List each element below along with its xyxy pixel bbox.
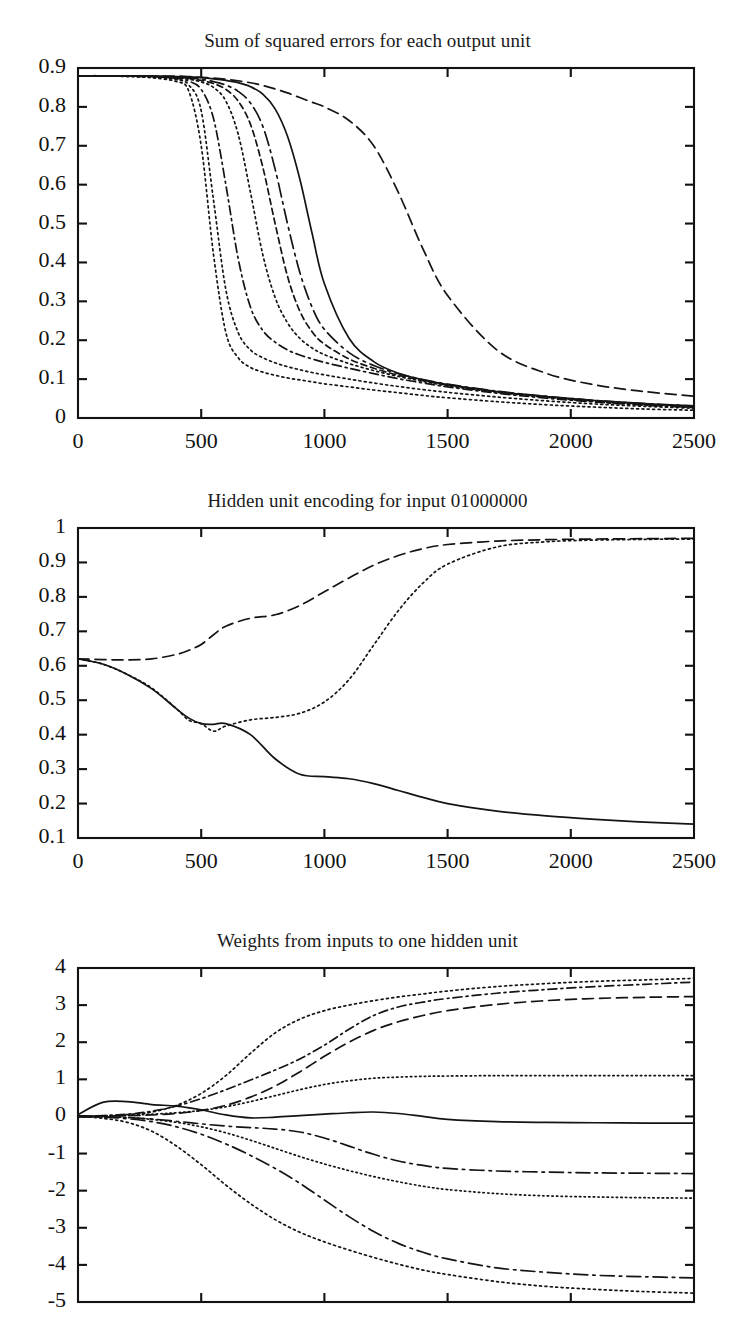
y-tick-label: 2 [55, 1027, 66, 1052]
plot-frame [78, 528, 694, 838]
figure-sum-of-squared-errors: Sum of squared errors for each output un… [0, 30, 735, 470]
y-tick-label: 0.1 [39, 823, 67, 848]
series-line-output-unit-8 [78, 76, 694, 396]
series-line-output-unit-2 [78, 76, 694, 409]
x-tick-label: 0 [73, 848, 84, 873]
figure-3-plot: -5-4-3-2-101234 [0, 930, 735, 1310]
figure-3-svg: -5-4-3-2-101234 [0, 930, 735, 1310]
series-line-weight-4 [78, 1076, 694, 1117]
y-tick-label: -2 [48, 1176, 66, 1201]
figure-weights-to-hidden-unit: Weights from inputs to one hidden unit -… [0, 930, 735, 1334]
x-tick-label: 2000 [549, 428, 593, 453]
x-tick-label: 1000 [302, 428, 346, 453]
y-tick-label: 1 [55, 513, 66, 538]
series-line-weight-3 [78, 982, 694, 1116]
y-tick-label: 0 [55, 403, 66, 428]
series-line-hidden-unit-b [78, 539, 694, 731]
plot-frame [78, 68, 694, 418]
y-tick-label: 0.9 [39, 547, 67, 572]
series-line-output-unit-4 [78, 76, 694, 407]
x-tick-label: 500 [185, 428, 218, 453]
x-tick-label: 2500 [672, 428, 716, 453]
series-line-output-unit-6 [78, 76, 694, 406]
y-tick-label: 0.5 [39, 685, 67, 710]
y-tick-label: 0 [55, 1101, 66, 1126]
series-line-hidden-unit-c [78, 659, 694, 824]
figure-hidden-unit-encoding: Hidden unit encoding for input 01000000 … [0, 490, 735, 890]
series-line-weight-9 [78, 1116, 694, 1293]
series-line-hidden-unit-a [78, 538, 694, 660]
y-tick-label: -4 [48, 1250, 66, 1275]
y-tick-label: 4 [55, 953, 66, 978]
y-tick-label: -1 [48, 1139, 66, 1164]
y-tick-label: 0.2 [39, 789, 67, 814]
y-tick-label: 3 [55, 990, 66, 1015]
y-tick-label: 0.3 [39, 286, 67, 311]
y-tick-label: 0.4 [39, 720, 67, 745]
series-line-output-unit-3 [78, 76, 694, 408]
x-tick-label: 2500 [672, 848, 716, 873]
series-line-output-unit-1 [78, 76, 694, 410]
y-tick-label: 0.9 [39, 53, 67, 78]
y-tick-label: 0.2 [39, 325, 67, 350]
scanned-figure-page: Sum of squared errors for each output un… [0, 0, 735, 1334]
y-tick-label: 0.3 [39, 754, 67, 779]
y-tick-label: 0.1 [39, 364, 67, 389]
x-tick-label: 500 [185, 848, 218, 873]
y-tick-label: -5 [48, 1287, 66, 1312]
y-tick-label: 0.8 [39, 582, 67, 607]
y-tick-label: 0.8 [39, 92, 67, 117]
y-tick-label: 0.6 [39, 170, 67, 195]
series-line-weight-1 [78, 978, 694, 1116]
x-tick-label: 1500 [426, 848, 470, 873]
y-tick-label: 0.6 [39, 651, 67, 676]
y-tick-label: 0.7 [39, 131, 67, 156]
x-tick-label: 1500 [426, 428, 470, 453]
series-line-output-unit-5 [78, 76, 694, 407]
plot-frame [78, 968, 694, 1302]
y-tick-label: 0.7 [39, 616, 67, 641]
figure-1-plot: 00.10.20.30.40.50.60.70.80.9050010001500… [0, 30, 735, 450]
figure-2-plot: 0.10.20.30.40.50.60.70.80.91050010001500… [0, 490, 735, 880]
y-tick-label: -3 [48, 1213, 66, 1238]
figure-2-svg: 0.10.20.30.40.50.60.70.80.91050010001500… [0, 490, 735, 880]
y-tick-label: 0.5 [39, 209, 67, 234]
x-tick-label: 0 [73, 428, 84, 453]
series-line-weight-2 [78, 997, 694, 1117]
series-line-output-unit-7 [78, 76, 694, 406]
figure-1-svg: 00.10.20.30.40.50.60.70.80.9050010001500… [0, 30, 735, 450]
y-tick-label: 0.4 [39, 247, 67, 272]
y-tick-label: 1 [55, 1064, 66, 1089]
x-tick-label: 2000 [549, 848, 593, 873]
x-tick-label: 1000 [302, 848, 346, 873]
